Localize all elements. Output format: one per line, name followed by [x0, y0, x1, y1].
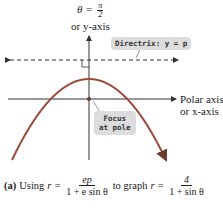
directrix-callout: Directrix: y = p [111, 37, 191, 50]
polar-axis-label: Polar axis or x-axis [180, 93, 223, 117]
general-formula: ep1 + e sin θ [64, 174, 110, 197]
focus-point [87, 97, 91, 101]
theta-label: θ = π2 [77, 2, 103, 19]
figure-caption: (a) Using r = ep1 + e sin θ to graph r =… [4, 174, 206, 197]
specific-formula: 41 + sin θ [167, 174, 206, 197]
right-angle-marker [82, 60, 89, 67]
y-axis-label: or y-axis [71, 20, 110, 32]
focus-callout: Focus at pole [94, 111, 136, 135]
